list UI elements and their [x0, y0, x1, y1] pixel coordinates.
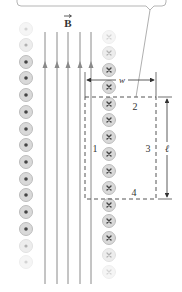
side-label-1: 1: [93, 143, 98, 154]
length-label: ℓ: [165, 143, 169, 154]
field-lines: [45, 32, 91, 284]
side-label-2: 2: [133, 101, 138, 112]
length-dimension: ℓ: [158, 97, 172, 199]
field-line-arrowheads: [43, 61, 94, 68]
width-label: w: [119, 75, 125, 85]
field-label-b: B: [64, 15, 72, 30]
callout-leader-line: [136, 10, 150, 97]
field-into-page-column: [103, 31, 116, 279]
side-label-3: 3: [146, 143, 151, 154]
width-dimension: w: [85, 72, 156, 97]
side-label-4: 4: [132, 187, 137, 198]
field-out-of-page-column: [20, 23, 33, 269]
svg-text:B: B: [64, 17, 72, 29]
magnetic-field-diagram: B: [0, 0, 182, 292]
